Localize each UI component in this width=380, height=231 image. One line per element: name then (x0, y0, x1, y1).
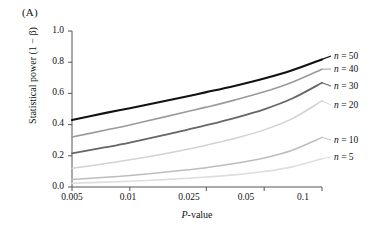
x-axis-label-rest: -value (188, 209, 213, 220)
legend-item-n-50: n = 50 (334, 51, 358, 61)
y-axis-ticks (68, 31, 72, 187)
x-tick-label-0.025: 0.025 (167, 192, 211, 202)
x-tick-label-0.05: 0.05 (224, 192, 268, 202)
y-tick-label-0.0: 0.0 (34, 181, 64, 191)
x-tick-label-0.01: 0.01 (106, 192, 150, 202)
legend-item-n-40: n = 40 (334, 64, 358, 74)
legend-item-n-20: n = 20 (334, 100, 358, 110)
power-curves (72, 59, 322, 183)
leader-n-50 (322, 56, 331, 59)
legend-leader-lines (322, 56, 331, 159)
legend-item-n-10: n = 10 (334, 135, 358, 145)
leader-n-20 (322, 101, 331, 105)
x-tick-label-0.1: 0.1 (281, 192, 325, 202)
x-axis-ticks (72, 187, 322, 191)
leader-n-30 (322, 83, 331, 86)
legend-item-n-30: n = 30 (334, 81, 358, 91)
legend-item-n-5: n = 5 (334, 152, 354, 162)
x-axis-label: P-value (72, 209, 322, 220)
y-tick-label-0.2: 0.2 (34, 150, 64, 160)
curve-n-10 (72, 137, 322, 179)
x-tick-label-0.005: 0.005 (50, 192, 94, 202)
power-curve-figure: (A) Statistical power (1 − β) P-value 1.… (0, 0, 380, 231)
leader-n-5 (322, 157, 331, 159)
y-tick-label-1.0: 1.0 (34, 25, 64, 35)
curve-n-20 (72, 101, 322, 168)
leader-n-10 (322, 137, 331, 140)
y-tick-label-0.6: 0.6 (34, 87, 64, 97)
y-tick-label-0.8: 0.8 (34, 56, 64, 66)
y-tick-label-0.4: 0.4 (34, 118, 64, 128)
curve-n-50 (72, 59, 322, 120)
y-axis-label: Statistical power (1 − β) (27, 0, 38, 156)
